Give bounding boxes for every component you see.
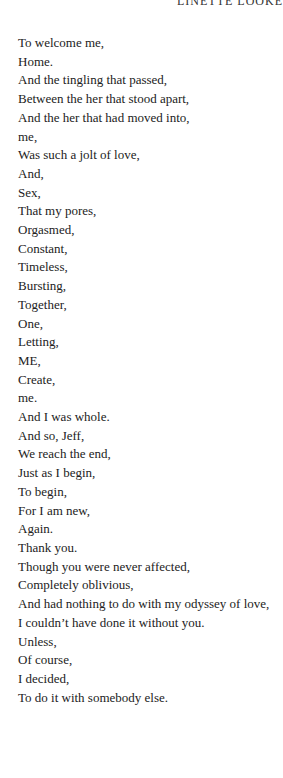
poem-line: One, <box>18 315 278 334</box>
poem-line: That my pores, <box>18 202 278 221</box>
poem-line: Sex, <box>18 184 278 203</box>
poem-line: Just as I begin, <box>18 464 278 483</box>
poem-line: me. <box>18 389 278 408</box>
poem-line: I couldn’t have done it without you. <box>18 614 278 633</box>
poem-line: Completely oblivious, <box>18 576 278 595</box>
poem-line: To welcome me, <box>18 34 278 53</box>
poem-line: Letting, <box>18 333 278 352</box>
poem-line: ME, <box>18 352 278 371</box>
poem-line: I decided, <box>18 670 278 689</box>
poem-body: To welcome me, Home. And the tingling th… <box>18 34 278 707</box>
poem-line: And the tingling that passed, <box>18 71 278 90</box>
poem-line: Thank you. <box>18 539 278 558</box>
poem-line: Again. <box>18 520 278 539</box>
poem-line: And had nothing to do with my odyssey of… <box>18 595 278 614</box>
poem-line: Of course, <box>18 651 278 670</box>
poem-line: Together, <box>18 296 278 315</box>
poem-line: me, <box>18 128 278 147</box>
poem-line: And, <box>18 165 278 184</box>
poem-line: We reach the end, <box>18 445 278 464</box>
poem-line: And so, Jeff, <box>18 427 278 446</box>
poem-line: Home. <box>18 53 278 72</box>
poem-line: Between the her that stood apart, <box>18 90 278 109</box>
poem-line: Timeless, <box>18 258 278 277</box>
poem-line: And I was whole. <box>18 408 278 427</box>
poem-line: To begin, <box>18 483 278 502</box>
poem-line: And the her that had moved into, <box>18 109 278 128</box>
poem-line: Though you were never affected, <box>18 558 278 577</box>
poem-line: Bursting, <box>18 277 278 296</box>
poem-line: Create, <box>18 371 278 390</box>
poem-line: Constant, <box>18 240 278 259</box>
poem-line: Orgasmed, <box>18 221 278 240</box>
poem-line: Unless, <box>18 633 278 652</box>
poem-line: To do it with somebody else. <box>18 689 278 708</box>
poem-line: Was such a jolt of love, <box>18 146 278 165</box>
running-header: LINETTE LOOKE <box>177 0 283 9</box>
poem-line: For I am new, <box>18 502 278 521</box>
